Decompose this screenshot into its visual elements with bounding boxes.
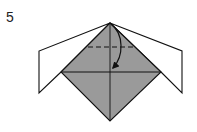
origami-diagram	[0, 0, 197, 132]
